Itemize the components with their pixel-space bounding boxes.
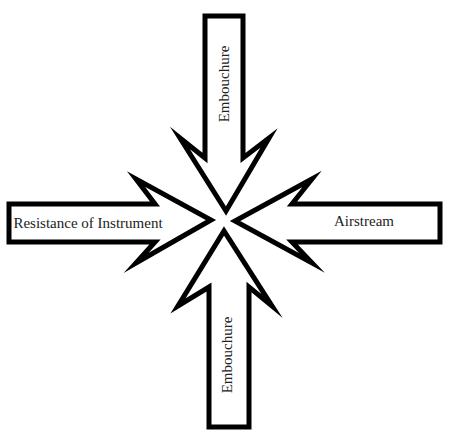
arrow-bottom-label: Embouchure: [219, 316, 235, 393]
arrow-left-resistance: Resistance of Instrument: [9, 179, 211, 263]
arrow-top-embouchure: Embouchure: [180, 16, 269, 211]
arrow-right-label: Airstream: [334, 213, 394, 229]
arrow-bottom-embouchure: Embouchure: [178, 231, 272, 427]
arrow-right-airstream: Airstream: [235, 179, 440, 263]
arrow-left-label: Resistance of Instrument: [13, 215, 163, 231]
forces-diagram: Embouchure Resistance of Instrument Airs…: [0, 0, 450, 440]
arrow-top-label: Embouchure: [216, 45, 232, 122]
